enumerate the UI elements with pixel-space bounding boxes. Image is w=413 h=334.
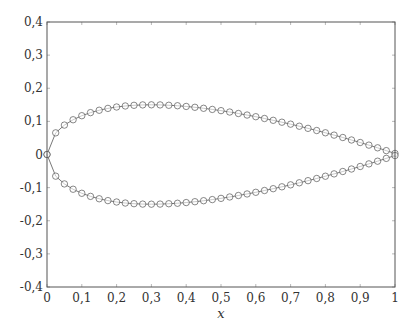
data-point-marker xyxy=(279,184,285,190)
data-point-marker xyxy=(340,168,346,174)
data-point-marker xyxy=(314,127,320,133)
data-point-marker xyxy=(357,163,363,169)
data-point-marker xyxy=(261,187,267,193)
data-point-marker xyxy=(348,137,354,143)
data-point-marker xyxy=(340,134,346,140)
data-point-marker xyxy=(366,142,372,148)
x-tick-label: 0,8 xyxy=(316,291,335,305)
data-point-marker xyxy=(61,181,67,187)
data-point-marker xyxy=(70,186,76,192)
data-point-marker xyxy=(192,199,198,205)
y-tick-label: -0,3 xyxy=(20,247,43,261)
data-point-marker xyxy=(122,200,128,206)
x-tick-label: 0,3 xyxy=(142,291,161,305)
x-tick-label: 0 xyxy=(43,291,51,305)
data-point-marker xyxy=(209,196,215,202)
y-tick-label: 0,4 xyxy=(24,15,43,29)
axis-ticks xyxy=(47,22,395,287)
data-point-marker xyxy=(122,103,128,109)
data-point-marker xyxy=(148,102,154,108)
data-point-marker xyxy=(383,147,389,153)
data-point-marker xyxy=(87,109,93,115)
data-point-marker xyxy=(148,201,154,207)
x-axis-label: x xyxy=(217,306,225,321)
y-tick-label: -0,1 xyxy=(20,181,43,195)
data-series xyxy=(44,102,398,208)
data-point-marker xyxy=(53,173,59,179)
data-point-marker xyxy=(270,185,276,191)
data-point-marker xyxy=(322,130,328,136)
y-tick-label: -0,2 xyxy=(20,214,43,228)
data-point-marker xyxy=(140,201,146,207)
data-point-marker xyxy=(157,102,163,108)
data-point-marker xyxy=(113,104,119,110)
data-point-marker xyxy=(383,155,389,161)
data-point-marker xyxy=(200,105,206,111)
x-tick-label: 0,1 xyxy=(72,291,91,305)
data-point-marker xyxy=(235,110,241,116)
x-tick-label: 0,9 xyxy=(351,291,370,305)
data-point-marker xyxy=(227,194,233,200)
data-point-marker xyxy=(244,112,250,118)
y-tick-label: 0,1 xyxy=(24,114,43,128)
data-point-marker xyxy=(287,121,293,127)
data-point-marker xyxy=(209,106,215,112)
data-point-marker xyxy=(131,102,137,108)
y-tick-label: 0,2 xyxy=(24,81,43,95)
y-tick-label: 0 xyxy=(35,148,43,162)
data-point-marker xyxy=(331,171,337,177)
data-point-marker xyxy=(200,198,206,204)
data-point-marker xyxy=(166,201,172,207)
x-tick-label: 0,7 xyxy=(281,291,300,305)
data-point-marker xyxy=(105,105,111,111)
data-point-marker xyxy=(96,196,102,202)
data-point-marker xyxy=(235,192,241,198)
data-point-marker xyxy=(218,107,224,113)
data-point-marker xyxy=(87,193,93,199)
y-tick-label: 0,3 xyxy=(24,48,43,62)
data-point-marker xyxy=(105,197,111,203)
data-point-marker xyxy=(53,130,59,136)
data-point-marker xyxy=(253,114,259,120)
data-point-marker xyxy=(79,190,85,196)
data-point-marker xyxy=(157,201,163,207)
x-tick-label: 0,5 xyxy=(211,291,230,305)
data-point-marker xyxy=(174,200,180,206)
data-point-marker xyxy=(253,189,259,195)
data-point-marker xyxy=(70,117,76,123)
data-point-marker xyxy=(374,158,380,164)
data-point-marker xyxy=(374,145,380,151)
data-point-marker xyxy=(113,199,119,205)
y-tick-label: -0,4 xyxy=(20,280,44,294)
data-point-marker xyxy=(305,177,311,183)
data-point-marker xyxy=(79,113,85,119)
data-point-marker xyxy=(279,119,285,125)
data-point-marker xyxy=(296,123,302,129)
data-point-marker xyxy=(61,122,67,128)
data-point-marker xyxy=(131,200,137,206)
data-point-marker xyxy=(227,109,233,115)
data-point-marker xyxy=(140,102,146,108)
data-point-marker xyxy=(183,103,189,109)
data-point-marker xyxy=(218,195,224,201)
data-point-marker xyxy=(174,103,180,109)
data-point-marker xyxy=(357,139,363,145)
data-point-marker xyxy=(314,175,320,181)
x-tick-label: 1 xyxy=(391,291,399,305)
data-point-marker xyxy=(270,117,276,123)
x-tick-label: 0,2 xyxy=(107,291,126,305)
data-point-marker xyxy=(244,191,250,197)
data-point-marker xyxy=(296,180,302,186)
data-point-marker xyxy=(166,102,172,108)
plot-frame xyxy=(47,22,395,287)
data-point-marker xyxy=(261,115,267,121)
data-point-marker xyxy=(96,107,102,113)
data-point-marker xyxy=(348,166,354,172)
x-tick-label: 0,4 xyxy=(177,291,196,305)
data-point-marker xyxy=(322,173,328,179)
data-point-marker xyxy=(305,125,311,131)
airfoil-chart: 00,10,20,30,40,50,60,70,80,91-0,4-0,3-0,… xyxy=(0,0,413,334)
data-point-marker xyxy=(192,104,198,110)
x-tick-label: 0,6 xyxy=(246,291,265,305)
data-point-marker xyxy=(183,199,189,205)
